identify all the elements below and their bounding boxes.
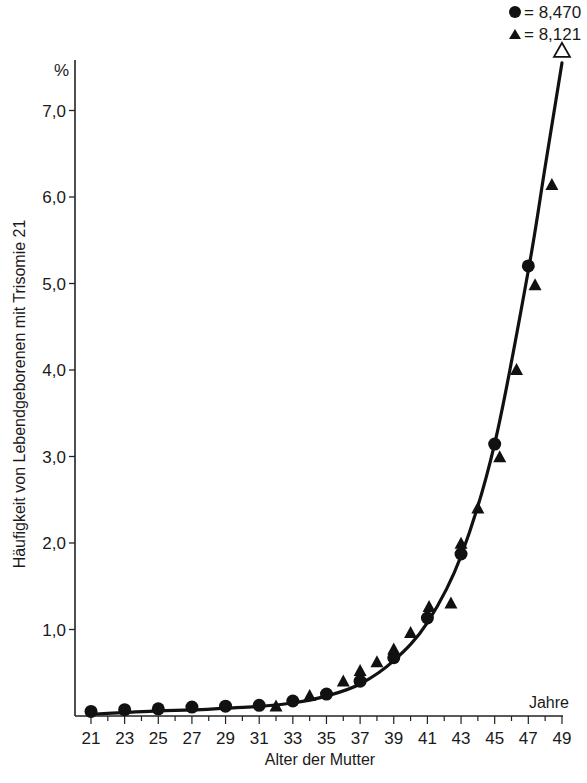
curve-line <box>91 63 562 714</box>
triangle-data-point <box>444 597 457 609</box>
x-tick-label: 47 <box>519 729 538 748</box>
circle-data-point <box>253 699 266 712</box>
y-tick-label: 3,0 <box>42 448 66 467</box>
y-tick-label: 6,0 <box>42 188 66 207</box>
circle-data-point <box>118 703 131 716</box>
y-tick-label: 5,0 <box>42 275 66 294</box>
triangle-data-point <box>545 178 558 190</box>
x-tick-label: 33 <box>283 729 302 748</box>
x-tick-label: 23 <box>115 729 134 748</box>
x-tick-label: 29 <box>216 729 235 748</box>
x-tick-label: 43 <box>452 729 471 748</box>
x-tick-label: 37 <box>351 729 370 748</box>
circle-data-point <box>354 675 367 688</box>
x-tick-label: 31 <box>250 729 269 748</box>
circle-data-point <box>320 688 333 701</box>
triangle-data-point <box>354 664 367 676</box>
triangle-data-point <box>337 674 350 686</box>
x-tick-label: 39 <box>384 729 403 748</box>
y-axis-title: Häufigkeit von Lebendgeborenen mit Triso… <box>11 220 28 569</box>
y-tick-label: 1,0 <box>42 621 66 640</box>
triangle-data-point <box>387 642 400 654</box>
legend: = 8,470 = 8,121 <box>509 3 581 44</box>
circle-data-point <box>455 547 468 560</box>
triangle-data-point <box>303 689 316 701</box>
series-circle-points <box>85 259 535 717</box>
x-tick-label: 49 <box>552 729 571 748</box>
circle-data-point <box>522 259 535 272</box>
axes: % Jahre 1,02,03,04,05,06,07,0 2123252729… <box>42 60 571 748</box>
x-tick-label: 25 <box>149 729 168 748</box>
x-axis-title: Alter der Mutter <box>265 751 376 768</box>
triangle-data-point <box>423 600 436 612</box>
circle-data-point <box>488 438 501 451</box>
circle-data-point <box>219 700 232 713</box>
circle-marker-icon <box>509 6 521 18</box>
x-unit-label: Jahre <box>529 694 569 711</box>
legend-label-circle: = 8,470 <box>524 3 581 22</box>
triangle-marker-icon <box>509 29 521 39</box>
y-tick-label: 7,0 <box>42 102 66 121</box>
series-triangle-points <box>270 178 559 712</box>
legend-item-circle: = 8,470 <box>509 3 581 22</box>
x-tick-label: 27 <box>182 729 201 748</box>
triangle-data-point <box>370 655 383 667</box>
y-axis-ticks: 1,02,03,04,05,06,07,0 <box>42 102 75 640</box>
x-tick-label: 21 <box>82 729 101 748</box>
x-tick-label: 41 <box>418 729 437 748</box>
x-tick-label: 45 <box>485 729 504 748</box>
y-tick-label: 4,0 <box>42 361 66 380</box>
circle-data-point <box>85 705 98 718</box>
legend-item-triangle: = 8,121 <box>509 25 581 44</box>
triangle-data-point <box>471 501 484 513</box>
y-unit-label: % <box>54 61 69 80</box>
circle-data-point <box>286 695 299 708</box>
x-tick-label: 35 <box>317 729 336 748</box>
circle-data-point <box>185 701 198 714</box>
x-axis-ticks: 212325272931333537394143454749 <box>82 716 572 748</box>
circle-data-point <box>152 702 165 715</box>
circle-data-point <box>421 611 434 624</box>
triangle-data-point <box>493 450 506 462</box>
trisomy-21-chart: = 8,470 = 8,121 % Jahre 1,02,03,04,05,06… <box>0 0 587 783</box>
open-arrow-icon <box>554 43 570 57</box>
y-tick-label: 2,0 <box>42 534 66 553</box>
fitted-curve <box>91 43 570 714</box>
triangle-data-point <box>529 278 542 290</box>
triangle-data-point <box>404 626 417 638</box>
legend-label-triangle: = 8,121 <box>524 25 581 44</box>
